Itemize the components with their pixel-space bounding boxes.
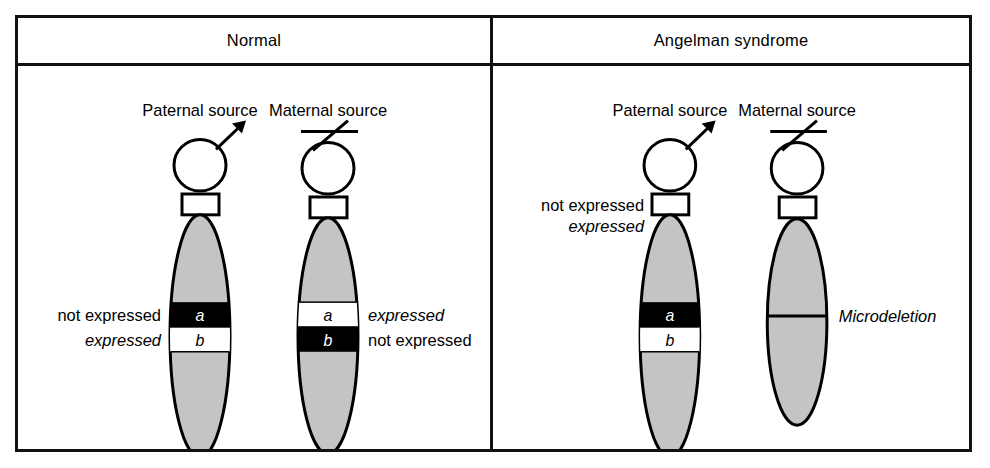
male-arrow-icon [644,121,716,191]
normal-panel-graphic: Paternal source [18,66,490,449]
header-angelman: Angelman syndrome [493,18,969,63]
band-letter-b-paternal-normal: b [196,332,205,349]
panel-angelman: Paternal source not expressed expressed [493,66,969,449]
female-cross-icon [301,121,358,194]
chromosome-body-maternal-angelman [767,219,827,425]
band-letter-b-maternal-normal: b [324,332,333,349]
source-label-maternal-normal: Maternal source [269,101,387,119]
expression-label-expressed-angelman: expressed [568,217,645,235]
diagram-frame: Normal Angelman syndrome Paternal source [15,15,972,452]
male-arrow-icon [174,121,246,191]
band-letter-a-maternal-normal: a [324,307,333,324]
expression-label-a-maternal-normal: expressed [368,306,445,324]
microdeletion-label: Microdeletion [839,307,936,325]
source-label-maternal-angelman: Maternal source [738,101,856,119]
band-letter-b-paternal-angelman: b [665,332,674,349]
band-letter-a-paternal-angelman: a [665,307,674,324]
centromere-box-paternal-angelman [652,194,689,215]
female-cross-icon [770,121,827,194]
expression-label-b-paternal-normal: expressed [85,331,162,349]
chromosome-angelman-paternal: Paternal source not expressed expressed [541,101,727,449]
band-letter-a-paternal-normal: a [196,307,205,324]
chromosome-angelman-maternal: Maternal source Microdeletion [738,101,936,426]
header-normal: Normal [18,18,493,63]
source-label-paternal-normal: Paternal source [142,101,257,119]
angelman-panel-graphic: Paternal source not expressed expressed [493,66,969,449]
centromere-box-maternal-angelman [779,197,816,218]
chromosome-normal-paternal: Paternal source [57,101,257,449]
source-label-paternal-angelman: Paternal source [612,101,727,119]
panel-header-row: Normal Angelman syndrome [18,18,969,66]
centromere-box-maternal-normal [310,197,347,218]
expression-label-a-paternal-normal: not expressed [57,306,161,324]
expression-label-b-maternal-normal: not expressed [368,331,472,349]
imprinting-diagram: Normal Angelman syndrome Paternal source [0,0,990,468]
expression-label-not-expressed-angelman: not expressed [541,196,644,214]
panel-body-row: Paternal source [18,66,969,449]
chromosome-normal-maternal: Maternal source [269,101,472,449]
panel-normal: Paternal source [18,66,493,449]
centromere-box-paternal-normal [182,194,219,215]
